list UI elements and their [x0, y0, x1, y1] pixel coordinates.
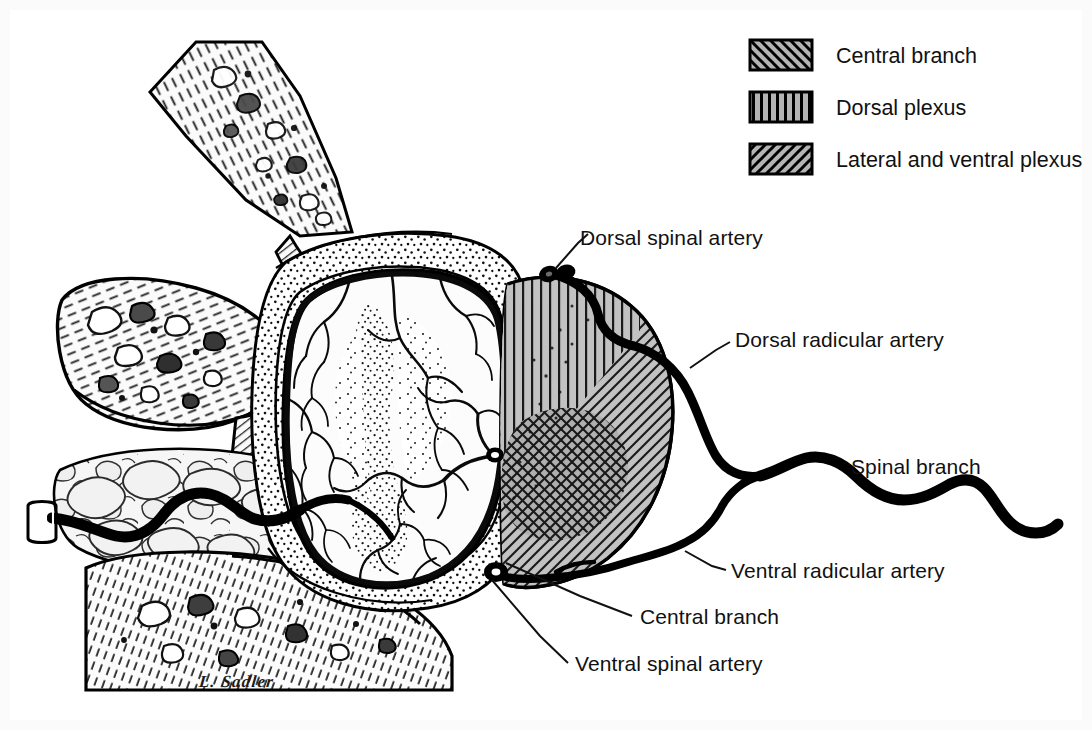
- ventral-spinal-artery: [484, 562, 508, 582]
- spinal-cord: [285, 272, 506, 586]
- anatomical-figure: Central branch Dorsal plexus Lateral and…: [0, 0, 1092, 730]
- legend-label-lateral-ventral-plexus: Lateral and ventral plexus: [836, 148, 1082, 173]
- callout-dorsal-spinal-artery: Dorsal spinal artery: [580, 226, 763, 250]
- callout-dorsal-radicular-artery: Dorsal radicular artery: [735, 328, 944, 352]
- legend-swatch-dorsal-plexus: [750, 92, 812, 122]
- legend-swatch-lateral-ventral-plexus: [750, 144, 812, 174]
- artist-signature: L. Sadler: [198, 672, 275, 692]
- legend-label-central-branch: Central branch: [836, 44, 977, 69]
- callout-central-branch: Central branch: [640, 605, 779, 629]
- callout-ventral-spinal-artery: Ventral spinal artery: [575, 652, 763, 676]
- legend-label-dorsal-plexus: Dorsal plexus: [836, 96, 966, 121]
- callout-ventral-radicular-artery: Ventral radicular artery: [731, 559, 945, 583]
- central-branch-node: [486, 448, 504, 463]
- callout-spinal-branch: Spinal branch: [851, 455, 981, 479]
- legend-swatches: [750, 40, 812, 174]
- legend-swatch-central-branch: [750, 40, 812, 70]
